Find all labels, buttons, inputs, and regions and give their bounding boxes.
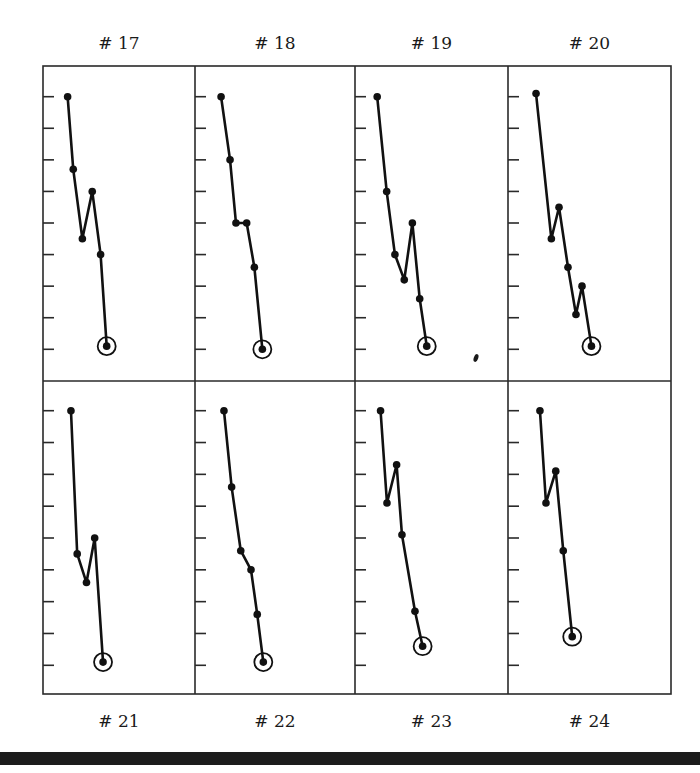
small-multiples-chart: # 17# 18# 19# 20# 21# 22# 23# 24 bbox=[0, 0, 700, 773]
data-point bbox=[383, 499, 391, 507]
data-point bbox=[559, 547, 567, 555]
data-point bbox=[383, 188, 391, 196]
data-point bbox=[88, 188, 96, 196]
data-point bbox=[409, 219, 417, 227]
data-point bbox=[243, 219, 251, 227]
data-point bbox=[572, 311, 580, 319]
data-point bbox=[226, 156, 234, 164]
data-point bbox=[228, 483, 236, 491]
data-point bbox=[67, 407, 75, 415]
data-point bbox=[237, 547, 245, 555]
data-point bbox=[83, 579, 91, 587]
data-point bbox=[568, 633, 576, 641]
data-point bbox=[69, 166, 77, 174]
panel-label: # 17 bbox=[98, 33, 139, 53]
data-point bbox=[393, 461, 401, 469]
data-point bbox=[217, 93, 225, 101]
data-point bbox=[247, 566, 255, 574]
data-point bbox=[532, 90, 540, 98]
series-line bbox=[221, 97, 262, 350]
data-point bbox=[251, 263, 259, 271]
data-point bbox=[552, 467, 560, 475]
data-point bbox=[588, 342, 596, 350]
data-point bbox=[91, 534, 99, 542]
data-point bbox=[542, 499, 550, 507]
data-point bbox=[400, 276, 408, 284]
data-point bbox=[578, 282, 586, 290]
series-line bbox=[68, 97, 107, 346]
data-point bbox=[220, 407, 228, 415]
data-point bbox=[232, 219, 240, 227]
data-point bbox=[79, 235, 87, 243]
scan-artifact-speck bbox=[473, 353, 480, 362]
series-line bbox=[377, 97, 427, 346]
data-point bbox=[419, 642, 427, 650]
data-point bbox=[548, 235, 556, 243]
data-point bbox=[564, 263, 572, 271]
data-point bbox=[411, 607, 419, 615]
data-point bbox=[73, 550, 81, 558]
panel-label: # 19 bbox=[411, 33, 452, 53]
series-line bbox=[224, 411, 263, 662]
panel-label: # 23 bbox=[411, 711, 452, 731]
data-point bbox=[555, 203, 563, 211]
series-line bbox=[71, 411, 103, 662]
series-line bbox=[540, 411, 572, 637]
panel-label: # 20 bbox=[569, 33, 610, 53]
data-point bbox=[398, 531, 406, 539]
data-point bbox=[260, 658, 268, 666]
panel-label: # 24 bbox=[569, 711, 610, 731]
data-point bbox=[253, 611, 261, 619]
panel-label: # 18 bbox=[254, 33, 295, 53]
series-line bbox=[536, 94, 591, 347]
data-point bbox=[259, 346, 267, 354]
data-point bbox=[64, 93, 72, 101]
data-point bbox=[536, 407, 544, 415]
data-point bbox=[416, 295, 424, 303]
panel-label: # 22 bbox=[254, 711, 295, 731]
bottom-divider-bar bbox=[0, 752, 700, 765]
data-point bbox=[99, 658, 107, 666]
data-point bbox=[103, 342, 111, 350]
data-point bbox=[377, 407, 385, 415]
data-point bbox=[423, 342, 431, 350]
data-point bbox=[373, 93, 381, 101]
data-point bbox=[97, 251, 105, 259]
data-point bbox=[391, 251, 399, 259]
panel-label: # 21 bbox=[98, 711, 139, 731]
